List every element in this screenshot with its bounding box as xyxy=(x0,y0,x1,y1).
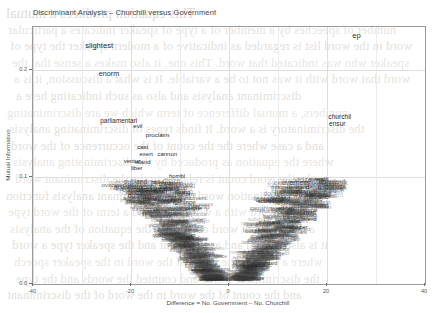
word-label-april: april xyxy=(273,199,283,204)
word-label-cannon: cannon xyxy=(157,151,177,157)
x-tick-label: 20 xyxy=(323,288,329,294)
x-tick xyxy=(326,283,327,286)
x-tick-label: 40 xyxy=(421,288,427,294)
word-label-submarin: submarin xyxy=(259,220,280,225)
word-label: briarward xyxy=(243,228,265,233)
word-label: harize xyxy=(174,214,189,220)
word-label-ensur: ensur xyxy=(329,121,346,128)
gridline-vertical-minor xyxy=(82,27,83,284)
gridline-horizontal xyxy=(33,284,425,285)
word-label: riserntain xyxy=(280,238,300,243)
word-label-accept: accept xyxy=(258,199,274,204)
word-label-entrap: entrap xyxy=(278,206,293,211)
y-tick xyxy=(29,69,32,70)
word-label: bator xyxy=(185,248,195,252)
x-tick xyxy=(424,283,425,286)
y-tick-label: 0.2 xyxy=(19,66,27,72)
gridline-vertical xyxy=(33,27,34,284)
word-label: imness xyxy=(266,246,281,251)
word-label: reformate xyxy=(195,275,215,280)
word-label-exert: exert xyxy=(140,151,153,157)
word-label: adtionform xyxy=(198,269,219,274)
word-label: subsion xyxy=(161,238,179,243)
word-label: adist xyxy=(255,262,266,267)
word-label: batern xyxy=(192,218,206,223)
word-label: forship xyxy=(241,241,255,246)
word-label-horribl: horribl xyxy=(169,174,185,180)
x-axis-label: Difference = No. Government – No. Church… xyxy=(167,299,290,306)
word-label-approv: approv xyxy=(309,192,327,198)
word-label-gradu: gradu xyxy=(159,182,173,188)
gridline-vertical xyxy=(327,27,328,284)
y-tick xyxy=(29,176,32,177)
chart-title: Discriminant Analysis – Churchill versus… xyxy=(33,8,216,17)
word-label: outistist xyxy=(148,209,168,215)
word-label: inive xyxy=(151,218,163,224)
word-label: vicship xyxy=(175,222,192,228)
x-tick xyxy=(228,283,229,286)
gridline-vertical xyxy=(229,27,230,284)
gridline-vertical-minor xyxy=(376,27,377,284)
word-label: resousize xyxy=(240,273,257,277)
word-label-defend: defend xyxy=(300,217,317,222)
gridline-vertical xyxy=(131,27,132,284)
y-tick-label: 0.0 xyxy=(19,280,27,286)
discriminant-analysis-figure: Discriminant Analysis – Churchill versus… xyxy=(0,0,437,313)
word-label: interive xyxy=(292,200,311,206)
word-label-proclaim: proclaim xyxy=(146,132,169,138)
word-label-bomber: bomber xyxy=(290,226,308,231)
gridline-horizontal xyxy=(33,70,425,71)
word-label-result: result xyxy=(315,177,329,183)
gridline-horizontal xyxy=(33,177,425,178)
y-tick-label: 0.1 xyxy=(19,173,27,179)
word-label-misunderstand: misunderstand xyxy=(271,185,309,191)
word-label-explos: explos xyxy=(170,198,186,203)
x-tick xyxy=(32,283,33,286)
y-axis-label: Mutual Information xyxy=(4,129,11,180)
plot-area: camiveoutardaintransshipresmentconnesspr… xyxy=(32,26,426,285)
word-label: natspectvent xyxy=(252,257,281,262)
word-label-ep: ep xyxy=(352,32,360,40)
x-tick-label: -40 xyxy=(28,288,36,294)
word-label: exize xyxy=(237,278,248,283)
word-label-parliamentari: parliamentari xyxy=(100,118,137,124)
word-label: natmark xyxy=(241,220,259,225)
gridline-vertical xyxy=(425,27,426,284)
word-label-evil: evil xyxy=(133,122,142,128)
word-label-slightest: slightest xyxy=(85,42,113,50)
x-tick xyxy=(130,283,131,286)
word-label-finish: finish xyxy=(154,189,167,195)
word-label-liber: liber xyxy=(131,165,142,171)
word-label-prime: prime xyxy=(143,198,156,203)
word-label-cast: cast xyxy=(137,144,148,150)
word-label-relief: relief xyxy=(289,219,300,224)
y-tick xyxy=(29,283,32,284)
word-label: restain xyxy=(200,262,213,266)
x-tick-label: -20 xyxy=(126,288,134,294)
word-label-enorm: enorm xyxy=(99,71,119,78)
word-label-strang: strang xyxy=(175,190,191,196)
word-label-island: island xyxy=(135,159,151,165)
x-tick-label: 0 xyxy=(226,288,229,294)
word-label: retion xyxy=(250,207,265,213)
